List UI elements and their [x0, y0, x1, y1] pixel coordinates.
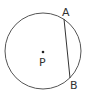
label-a: A — [62, 6, 70, 19]
label-b: B — [70, 79, 78, 92]
chord-ab — [64, 19, 70, 78]
label-p: P — [39, 56, 46, 69]
circle-chord-diagram: A B P — [0, 0, 86, 94]
center-point-p — [42, 51, 45, 54]
